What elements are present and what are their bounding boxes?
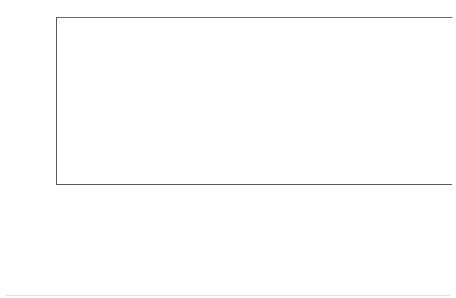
reference-line-or-1 — [57, 17, 452, 18]
footer-rule — [6, 295, 450, 296]
x-axis-category-labels — [56, 188, 452, 256]
y-axis-tick-labels — [24, 0, 52, 298]
plot-area — [56, 17, 452, 185]
group-brackets — [56, 258, 452, 298]
forest-plot-figure — [0, 0, 456, 298]
